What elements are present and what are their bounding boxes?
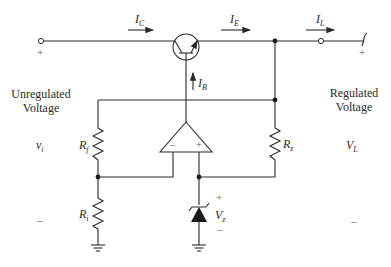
op-amp-icon <box>160 122 212 152</box>
output-terminal-icon <box>318 38 323 43</box>
base-current-label: IB <box>198 77 207 89</box>
input-minus-sign: – <box>37 215 43 226</box>
regulated-title-line2: Voltage <box>324 100 384 114</box>
opamp-noninverting-sign: + <box>196 140 202 150</box>
input-voltage-symbol: vi <box>36 139 44 151</box>
input-terminal-icon <box>38 38 43 43</box>
zener-bias-wire <box>199 160 275 177</box>
resistor-rz-icon <box>270 128 280 160</box>
load-voltage-symbol: VL <box>346 139 358 151</box>
npn-transistor-icon <box>173 34 199 60</box>
resistor-rf-icon <box>93 128 103 160</box>
ri-label: Ri <box>79 208 89 220</box>
rf-label: Rf <box>79 139 89 151</box>
vz-minus-sign: – <box>217 224 223 235</box>
load-current-label: IL <box>316 13 324 25</box>
vz-label: Vz <box>215 209 225 221</box>
unregulated-voltage-title: Unregulated Voltage <box>8 87 74 115</box>
rz-label: Rz <box>283 138 293 150</box>
ground-icon <box>91 245 105 251</box>
inverting-input-wire <box>98 152 173 177</box>
regulated-title-line1: Regulated <box>324 86 384 100</box>
opamp-inverting-sign: – <box>170 140 175 150</box>
wire-break-icon <box>362 33 367 46</box>
vz-plus-sign: + <box>216 192 222 203</box>
output-minus-sign: – <box>351 216 357 227</box>
emitter-current-label: IE <box>230 13 239 25</box>
zener-diode-icon <box>189 203 209 222</box>
output-plus-sign: + <box>359 47 365 58</box>
unregulated-title-line1: Unregulated <box>8 87 74 101</box>
input-plus-sign: + <box>37 47 43 58</box>
unregulated-title-line2: Voltage <box>8 101 74 115</box>
regulator-circuit-diagram: IC IE IL IB + Unregulated Voltage vi – +… <box>0 0 391 267</box>
ground-icon <box>192 245 206 251</box>
collector-current-label: IC <box>135 13 144 25</box>
regulated-voltage-title: Regulated Voltage <box>324 86 384 114</box>
resistor-ri-icon <box>93 198 103 229</box>
circuit-schematic <box>0 0 391 267</box>
